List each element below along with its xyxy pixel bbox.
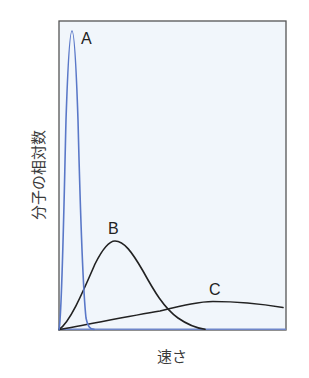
- plot-area: [59, 21, 286, 330]
- x-axis-label: 速さ: [157, 348, 187, 366]
- y-axis-label: 分子の相対数: [30, 130, 48, 220]
- curve-label-b: B: [108, 220, 119, 237]
- curve-label-c: C: [209, 281, 221, 298]
- curve-label-a: A: [81, 30, 92, 47]
- maxwell-distribution-chart: A B C 速さ 分子の相対数: [0, 0, 309, 378]
